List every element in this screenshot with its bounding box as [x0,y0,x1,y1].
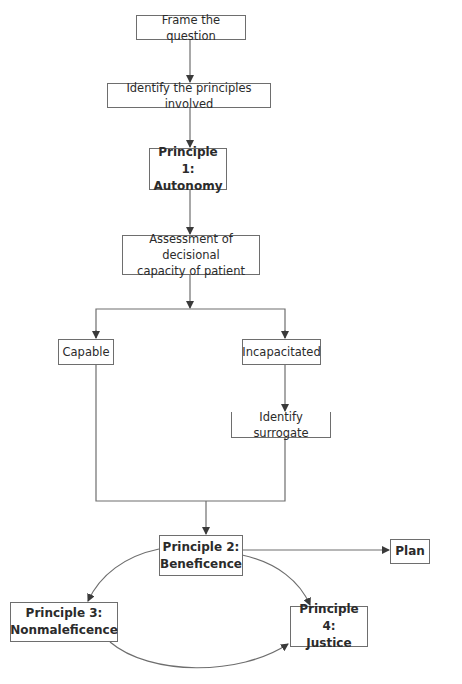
node-assessment-capacity: Assessment of decisional capacity of pat… [122,235,260,275]
node-label-line1: Principle 3: [26,605,103,622]
node-label-line2: Nonmaleficence [10,622,118,639]
node-label: Identify the principles involved [108,80,270,112]
node-principle-1-autonomy: Principle 1: Autonomy [149,148,227,190]
node-identify-surrogate: Identify surrogate [231,412,331,438]
node-frame-the-question: Frame the question [136,15,246,40]
node-identify-principles: Identify the principles involved [107,83,271,108]
arrow-p2-to-p4 [242,555,310,605]
node-label: Plan [395,543,425,560]
node-incapacitated: Incapacitated [242,339,321,365]
node-principle-3-nonmaleficence: Principle 3: Nonmaleficence [10,602,118,642]
node-label-line2: Justice [306,635,351,652]
node-capable: Capable [58,339,114,365]
node-label-line2: Autonomy [154,178,223,195]
node-label: Frame the question [137,12,245,44]
branch-line [96,309,285,338]
node-label-line2: capacity of patient [137,263,245,279]
node-principle-2-beneficence: Principle 2: Beneficence [159,535,243,576]
node-label-line1: Principle 2: [163,539,240,556]
node-plan: Plan [390,539,430,564]
node-label: Identify surrogate [232,409,330,441]
arrow-p2-to-p3 [88,549,159,601]
node-label-line1: Principle 1: [150,144,226,178]
node-label: Incapacitated [242,344,320,360]
arrow-p3-to-p4 [110,642,288,668]
node-label-line1: Principle 4: [291,601,367,635]
node-label-line2: Beneficence [160,556,242,573]
node-principle-4-justice: Principle 4: Justice [290,606,368,647]
node-label: Capable [63,344,110,360]
node-label-line1: Assessment of decisional [123,231,259,263]
